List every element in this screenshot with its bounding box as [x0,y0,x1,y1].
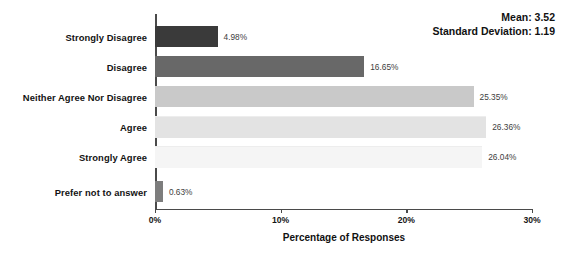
x-axis-tick-label: 20% [398,215,415,225]
bar-neither-agree-nor-disagree [155,86,474,107]
bar-agree [155,116,486,138]
category-label-strongly-disagree: Strongly Disagree [65,32,147,43]
bar-strongly-agree [155,146,482,168]
x-axis-title: Percentage of Responses [155,232,533,243]
bar-value-agree: 26.36% [492,122,520,132]
x-axis-tick-mark [532,209,533,213]
bar-row: Strongly Agree 26.04% [155,142,532,172]
bar-value-disagree: 16.65% [370,62,398,72]
bar-value-neither-agree-nor-disagree: 25.35% [480,92,508,102]
x-axis-tick-label: 10% [272,215,289,225]
bar-value-strongly-agree: 26.04% [488,152,516,162]
x-axis-tick-label: 30% [523,215,540,225]
category-label-agree: Agree [120,122,147,133]
bar-row: Strongly Disagree 4.98% [155,22,532,52]
bar-prefer-not-to-answer [155,181,163,202]
x-axis-tick-mark [281,209,282,213]
bar-strongly-disagree [155,26,218,47]
category-label-strongly-agree: Strongly Agree [79,152,147,163]
x-axis-tick-mark [155,209,156,213]
bar-value-prefer-not-to-answer: 0.63% [169,187,193,197]
bar-row: Agree 26.36% [155,112,532,142]
bar-row: Prefer not to answer 0.63% [155,177,532,207]
x-axis-tick-label: 0% [149,215,161,225]
category-label-disagree: Disagree [107,62,147,73]
category-label-neither-agree-nor-disagree: Neither Agree Nor Disagree [23,92,147,103]
bar-chart: Mean: 3.52 Standard Deviation: 1.19 Stro… [0,0,568,263]
bar-row: Neither Agree Nor Disagree 25.35% [155,82,532,112]
plot-area: Strongly Disagree 4.98% Disagree 16.65% … [155,14,532,210]
bar-disagree [155,56,364,77]
x-axis-tick-mark [406,209,407,213]
bar-value-strongly-disagree: 4.98% [224,32,248,42]
category-label-prefer-not-to-answer: Prefer not to answer [55,187,147,198]
bar-row: Disagree 16.65% [155,52,532,82]
